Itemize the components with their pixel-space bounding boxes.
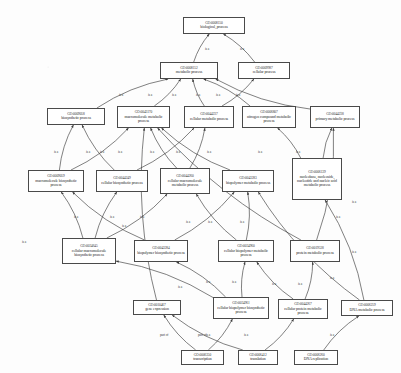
edge-is-a xyxy=(59,125,73,170)
edge-relation-label: is a xyxy=(352,200,356,204)
go-term-node[interactable]: GO:0044260cellular macromolecule metabol… xyxy=(160,168,210,194)
go-term-label: cellular biopolymer metabolic process xyxy=(220,249,272,257)
edge-is-a xyxy=(216,79,310,109)
go-term-node[interactable]: GO:0006807nitrogen compound metabolic pr… xyxy=(242,106,296,128)
go-term-label: nucleobase, nucleoside, nucleotide and n… xyxy=(294,175,340,187)
edge-relation-label: is a xyxy=(118,150,122,154)
edge-relation-label: is a xyxy=(208,220,212,224)
edge-relation-label: is a xyxy=(232,280,236,284)
go-term-node[interactable]: GO:0043284biopolymer biosynthetic proces… xyxy=(134,240,188,262)
go-term-node[interactable]: GO:0044249cellular biosynthetic process xyxy=(96,170,148,192)
edge-relation-label: is a xyxy=(352,250,356,254)
go-dag-diagram: GO:0008150biological_processGO:0008152me… xyxy=(0,0,401,373)
edge-relation-label: is a xyxy=(244,333,248,337)
go-term-label: macromolecule metabolic process xyxy=(119,115,168,123)
go-term-label: transcription xyxy=(193,357,211,361)
go-term-label: protein metabolic process xyxy=(296,251,333,255)
edge-is-a xyxy=(176,262,225,297)
edge-is-a xyxy=(241,262,245,297)
edge-relation-label: is a xyxy=(272,282,276,286)
go-term-node[interactable]: GO:0034961cellular biopolymer biosynthet… xyxy=(213,297,269,319)
go-term-node[interactable]: GO:0009058biosynthetic process xyxy=(47,108,105,125)
go-term-node[interactable]: GO:0008152metabolic process xyxy=(160,62,218,79)
edge-relation-label: is a xyxy=(140,215,144,219)
edge-is-a xyxy=(107,194,167,238)
go-term-label: nitrogen compound metabolic process xyxy=(244,115,294,123)
go-term-node[interactable]: GO:0006259DNA metabolic process xyxy=(341,300,393,316)
edge-relation-label: is a xyxy=(172,93,176,97)
go-term-node[interactable]: GO:0009059macromolecule biosynthetic pro… xyxy=(28,170,84,192)
go-term-label: translation xyxy=(250,357,265,361)
go-term-node[interactable]: GO:0044238primary metabolic process xyxy=(310,106,360,128)
edge-is-a xyxy=(196,194,236,240)
edge-relation-label: is a xyxy=(178,285,182,289)
go-term-node[interactable]: GO:0006350transcription xyxy=(181,350,224,365)
edge-relation-label: is a xyxy=(100,150,104,154)
go-term-node[interactable]: GO:0006260DNA replication xyxy=(294,350,338,365)
go-term-label: biopolymer metabolic process xyxy=(226,181,270,185)
go-term-node[interactable]: GO:0044237cellular metabolic process xyxy=(184,106,234,128)
edge-relation-label: is a xyxy=(298,282,302,286)
edge-is-a xyxy=(116,261,213,297)
edge-relation-label: is a xyxy=(54,150,58,154)
edge-is-a xyxy=(223,34,254,62)
edge-is-a xyxy=(82,125,114,170)
edge-is-a xyxy=(137,128,194,170)
edge-is-a xyxy=(257,262,293,299)
go-term-label: macromolecule biosynthetic process xyxy=(30,179,82,187)
edge-relation-label: is a xyxy=(206,280,210,284)
edge-relation-label: is a xyxy=(330,276,334,280)
edge-relation-label: is a xyxy=(186,220,190,224)
go-term-label: cellular macromolecule metabolic process xyxy=(162,179,208,187)
go-term-label: cellular macromolecule biosynthetic proc… xyxy=(64,249,114,257)
edge-is-a xyxy=(71,128,129,170)
go-term-node[interactable]: GO:0034960cellular biopolymer metabolic … xyxy=(218,240,274,262)
go-term-label: cellular metabolic process xyxy=(190,117,228,121)
edge-relation-label: is a xyxy=(86,150,90,154)
go-term-node[interactable]: GO:0009987cellular process xyxy=(238,62,290,79)
go-term-label: biopolymer biosynthetic process xyxy=(137,251,184,255)
edge-relation-label: is a xyxy=(122,224,126,228)
edge-relation-label: is a xyxy=(240,47,244,51)
go-term-label: cellular biosynthetic process xyxy=(101,181,142,185)
edge-relation-label: is a xyxy=(207,150,211,154)
go-term-node[interactable]: GO:0008150biological_process xyxy=(183,17,245,34)
edge-relation-label: is a xyxy=(240,220,244,224)
go-term-label: gene expression xyxy=(145,307,168,311)
go-term-label: DNA replication xyxy=(304,357,328,361)
edge-relation-label: is a xyxy=(176,150,180,154)
edge-relation-label: is a xyxy=(196,93,200,97)
edge-is-a xyxy=(246,192,249,240)
edge-relation-label: is a xyxy=(236,93,240,97)
edge-relation-label: is a xyxy=(22,240,26,244)
edge-is-a xyxy=(175,192,235,240)
go-term-node[interactable]: GO:0006412translation xyxy=(238,350,278,365)
edge-relation-label: is a xyxy=(258,150,262,154)
go-term-node[interactable]: GO:0034645cellular macromolecule biosynt… xyxy=(62,238,116,264)
go-term-label: cellular protein metabolic process xyxy=(280,307,326,315)
go-term-node[interactable]: GO:0044267cellular protein metabolic pro… xyxy=(278,299,328,319)
edge-relation-label: is a xyxy=(119,93,123,97)
edge-is-a xyxy=(323,128,332,158)
edge-is-a xyxy=(73,192,145,240)
edge-is-a xyxy=(324,316,359,350)
go-term-node[interactable]: GO:0006139nucleobase, nucleoside, nucleo… xyxy=(292,158,342,200)
go-term-node[interactable]: GO:0010467gene expression xyxy=(133,300,181,315)
edge-relation-label: part of xyxy=(198,333,206,337)
edge-relation-label: is a xyxy=(296,150,300,154)
go-term-node[interactable]: GO:0043170macromolecule metabolic proces… xyxy=(117,106,170,128)
edge-relation-label: is a xyxy=(205,47,209,51)
edge-relation-label: is a xyxy=(110,215,114,219)
edge-relation-label: is a xyxy=(336,215,340,219)
edge-is-a xyxy=(208,319,232,350)
edge-is-a xyxy=(154,79,180,106)
edge-relation-label: is a xyxy=(206,333,210,337)
go-term-label: metabolic process xyxy=(176,70,202,74)
go-term-label: cellular process xyxy=(253,70,276,74)
go-term-node[interactable]: GO:0043283biopolymer metabolic process xyxy=(222,170,274,192)
edge-relation-label: is a xyxy=(330,333,334,337)
go-term-label: primary metabolic process xyxy=(316,117,355,121)
edge-relation-label: part of xyxy=(160,333,168,337)
go-term-node[interactable]: GO:0019538protein metabolic process xyxy=(290,240,340,262)
edge-relation-label: is a xyxy=(148,93,152,97)
